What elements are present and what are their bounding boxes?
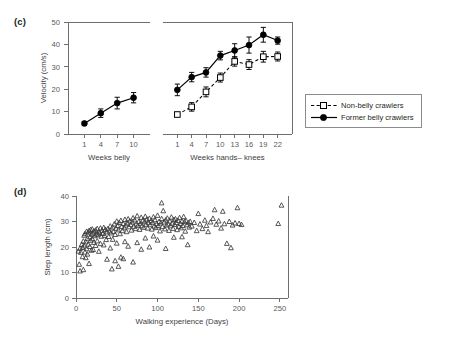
data-point-open-triangle — [161, 208, 166, 213]
figure-plot-area: 01020304050Velocity (cm/s)14710Weeks bel… — [0, 0, 449, 354]
data-point-open-triangle — [198, 222, 203, 227]
panel-d-y-tick-label: 30 — [61, 217, 69, 226]
panel-c-y-tick-label: 50 — [52, 18, 60, 27]
data-point-open-square — [203, 89, 209, 95]
data-point-open-triangle — [81, 267, 86, 272]
panel-c-y-tick-label: 30 — [52, 63, 60, 72]
legend-marker-filled-circle — [311, 112, 337, 123]
legend-marker-open-square — [311, 100, 337, 111]
panel-c-right-x-axis-title: Weeks hands– knees — [190, 153, 265, 162]
data-point-filled-circle — [246, 42, 252, 48]
data-point-open-triangle — [196, 211, 201, 216]
data-point-open-triangle — [229, 245, 234, 250]
data-point-filled-circle — [217, 53, 223, 59]
data-point-open-triangle — [211, 216, 216, 221]
data-point-open-square — [218, 75, 224, 81]
panel-d-y-tick-label: 0 — [65, 294, 69, 303]
data-point-open-triangle — [276, 221, 281, 226]
data-point-open-triangle — [185, 242, 190, 247]
panel-c-y-tick-label: 10 — [52, 107, 60, 116]
data-point-open-triangle — [95, 238, 100, 243]
data-point-open-triangle — [147, 245, 152, 250]
data-point-open-triangle — [227, 219, 232, 224]
data-point-open-triangle — [101, 242, 106, 247]
panel-d-x-axis-title: Walking experience (Days) — [136, 317, 229, 326]
data-point-open-triangle — [194, 228, 199, 233]
panel-d-x-tick-label: 0 — [74, 304, 78, 313]
data-point-open-triangle — [110, 266, 115, 271]
data-point-open-triangle — [143, 214, 148, 219]
data-point-open-triangle — [163, 246, 168, 251]
data-point-open-triangle — [224, 241, 229, 246]
data-point-open-triangle — [216, 218, 221, 223]
panel-c-right-x-tick-label: 13 — [230, 140, 238, 149]
data-point-open-triangle — [139, 247, 144, 252]
data-point-open-triangle — [93, 243, 98, 248]
data-point-open-triangle — [110, 237, 115, 242]
data-point-open-triangle — [180, 234, 185, 239]
panel-c-left-x-axis-title: Weeks belly — [88, 153, 130, 162]
panel-d-x-tick-label: 100 — [151, 304, 164, 313]
panel-c-right-x-tick-label: 10 — [216, 140, 224, 149]
data-point-filled-circle — [275, 38, 281, 44]
data-point-open-triangle — [135, 213, 140, 218]
data-point-open-triangle — [220, 209, 225, 214]
legend-label-non-belly: Non-belly crawlers — [341, 101, 403, 110]
data-point-open-triangle — [171, 235, 176, 240]
data-point-open-triangle — [113, 232, 118, 237]
data-point-open-square — [246, 62, 252, 68]
panel-d-x-tick-label: 250 — [274, 304, 287, 313]
figure-container: (c) (d) 01020304050Velocity (cm/s)14710W… — [0, 0, 449, 354]
data-point-open-triangle — [235, 205, 240, 210]
data-point-open-square — [232, 59, 238, 65]
panel-d-y-tick-label: 40 — [61, 192, 69, 201]
panel-c-left-x-tick-label: 1 — [82, 140, 86, 149]
series-line-filled-circle — [84, 98, 133, 124]
legend-label-former-belly: Former belly crawlers — [341, 113, 414, 122]
panel-d-x-tick-label: 200 — [233, 304, 246, 313]
data-point-open-triangle — [116, 264, 121, 269]
data-point-filled-circle — [232, 48, 238, 54]
panel-c-right-x-tick-label: 4 — [190, 140, 194, 149]
legend-item-former-belly: Former belly crawlers — [311, 111, 414, 123]
data-point-open-triangle — [206, 229, 211, 234]
data-point-open-triangle — [219, 226, 224, 231]
data-point-open-square — [175, 112, 181, 118]
data-point-open-triangle — [233, 221, 238, 226]
data-point-open-triangle — [159, 200, 164, 205]
data-point-filled-circle — [189, 74, 195, 80]
data-point-open-triangle — [212, 207, 217, 212]
panel-c-y-tick-label: 40 — [52, 40, 60, 49]
panel-c-left-x-tick-label: 10 — [129, 140, 137, 149]
data-point-open-triangle — [123, 239, 128, 244]
panel-d-y-tick-label: 20 — [61, 243, 69, 252]
panel-d-y-tick-label: 10 — [61, 268, 69, 277]
data-point-open-triangle — [113, 258, 118, 263]
data-point-filled-circle — [82, 121, 88, 127]
data-point-open-triangle — [96, 249, 101, 254]
data-point-filled-circle — [114, 100, 120, 106]
panel-c-left-x-tick-label: 7 — [115, 140, 119, 149]
data-point-filled-circle — [203, 70, 209, 76]
panel-d-x-tick-label: 50 — [113, 304, 121, 313]
data-point-open-triangle — [105, 257, 110, 262]
data-point-filled-circle — [260, 32, 266, 38]
panel-d-x-tick-label: 150 — [192, 304, 205, 313]
legend: Non-belly crawlers Former belly crawlers — [305, 94, 422, 128]
data-point-open-triangle — [87, 261, 92, 266]
data-point-open-triangle — [143, 236, 148, 241]
data-point-open-triangle — [151, 234, 156, 239]
data-point-filled-circle — [174, 87, 180, 93]
data-point-filled-circle — [98, 110, 104, 116]
panel-d-y-axis-title: Step length (cm) — [43, 218, 52, 276]
panel-c-right-x-tick-label: 16 — [245, 140, 253, 149]
data-point-open-triangle — [135, 240, 140, 245]
data-point-open-triangle — [181, 214, 186, 219]
data-point-open-triangle — [155, 213, 160, 218]
data-point-open-triangle — [108, 246, 113, 251]
data-point-open-square — [261, 54, 267, 60]
legend-item-non-belly: Non-belly crawlers — [311, 99, 414, 111]
panel-c-right-x-tick-label: 7 — [204, 140, 208, 149]
panel-c-y-tick-label: 0 — [56, 130, 60, 139]
data-point-open-triangle — [279, 203, 284, 208]
